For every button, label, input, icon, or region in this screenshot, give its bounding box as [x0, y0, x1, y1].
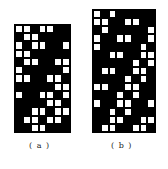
- filled-cell: [116, 26, 124, 34]
- filled-cell: [132, 108, 140, 116]
- filled-cell: [101, 108, 109, 116]
- filled-cell: [54, 33, 62, 41]
- filled-cell: [46, 58, 54, 66]
- filled-cell: [101, 59, 109, 67]
- filled-cell: [39, 58, 47, 66]
- empty-cell: [124, 18, 132, 26]
- empty-cell: [31, 116, 39, 124]
- empty-cell: [93, 83, 101, 91]
- filled-cell: [39, 33, 47, 41]
- filled-cell: [54, 124, 62, 132]
- empty-cell: [140, 51, 148, 59]
- filled-cell: [31, 74, 39, 82]
- filled-cell: [132, 75, 140, 83]
- empty-cell: [124, 108, 132, 116]
- empty-cell: [93, 18, 101, 26]
- filled-cell: [124, 43, 132, 51]
- filled-cell: [132, 43, 140, 51]
- empty-cell: [124, 34, 132, 42]
- empty-cell: [31, 107, 39, 115]
- filled-cell: [132, 10, 140, 18]
- empty-cell: [109, 108, 117, 116]
- empty-cell: [39, 41, 47, 49]
- filled-cell: [147, 108, 155, 116]
- empty-cell: [93, 10, 101, 18]
- filled-cell: [147, 75, 155, 83]
- empty-cell: [132, 83, 140, 91]
- empty-cell: [116, 99, 124, 107]
- filled-cell: [124, 59, 132, 67]
- filled-cell: [116, 18, 124, 26]
- filled-cell: [147, 67, 155, 75]
- filled-cell: [23, 66, 31, 74]
- empty-cell: [31, 124, 39, 132]
- filled-cell: [62, 116, 70, 124]
- filled-cell: [15, 33, 23, 41]
- filled-cell: [62, 74, 70, 82]
- grid-panel-b: [92, 9, 156, 133]
- empty-cell: [132, 59, 140, 67]
- filled-cell: [147, 124, 155, 132]
- empty-cell: [101, 67, 109, 75]
- empty-cell: [39, 124, 47, 132]
- filled-cell: [31, 91, 39, 99]
- empty-cell: [101, 26, 109, 34]
- filled-cell: [31, 25, 39, 33]
- filled-cell: [54, 66, 62, 74]
- filled-cell: [39, 83, 47, 91]
- filled-cell: [140, 34, 148, 42]
- filled-cell: [31, 66, 39, 74]
- empty-cell: [23, 116, 31, 124]
- empty-cell: [62, 66, 70, 74]
- empty-cell: [23, 50, 31, 58]
- empty-cell: [93, 99, 101, 107]
- empty-cell: [54, 83, 62, 91]
- empty-cell: [140, 43, 148, 51]
- filled-cell: [93, 75, 101, 83]
- empty-cell: [31, 41, 39, 49]
- filled-cell: [109, 75, 117, 83]
- empty-cell: [15, 25, 23, 33]
- empty-cell: [140, 67, 148, 75]
- filled-cell: [124, 116, 132, 124]
- filled-cell: [116, 108, 124, 116]
- filled-cell: [147, 43, 155, 51]
- empty-cell: [109, 116, 117, 124]
- filled-cell: [124, 10, 132, 18]
- empty-cell: [116, 34, 124, 42]
- filled-cell: [23, 91, 31, 99]
- empty-cell: [147, 26, 155, 34]
- filled-cell: [15, 116, 23, 124]
- empty-cell: [62, 91, 70, 99]
- filled-cell: [62, 33, 70, 41]
- filled-cell: [39, 74, 47, 82]
- empty-cell: [62, 107, 70, 115]
- filled-cell: [23, 107, 31, 115]
- empty-cell: [109, 10, 117, 18]
- empty-cell: [62, 58, 70, 66]
- empty-cell: [101, 124, 109, 132]
- filled-cell: [39, 50, 47, 58]
- filled-cell: [109, 26, 117, 34]
- empty-cell: [15, 41, 23, 49]
- empty-cell: [93, 34, 101, 42]
- filled-cell: [101, 99, 109, 107]
- empty-cell: [147, 99, 155, 107]
- empty-cell: [132, 18, 140, 26]
- filled-cell: [109, 99, 117, 107]
- filled-cell: [46, 50, 54, 58]
- filled-cell: [31, 50, 39, 58]
- empty-cell: [147, 34, 155, 42]
- filled-cell: [101, 116, 109, 124]
- panel-label-b: ( b ): [111, 141, 132, 150]
- empty-cell: [147, 116, 155, 124]
- filled-cell: [140, 83, 148, 91]
- filled-cell: [46, 83, 54, 91]
- filled-cell: [15, 107, 23, 115]
- filled-cell: [109, 91, 117, 99]
- empty-cell: [54, 74, 62, 82]
- filled-cell: [15, 83, 23, 91]
- filled-cell: [109, 59, 117, 67]
- filled-cell: [124, 91, 132, 99]
- filled-cell: [93, 26, 101, 34]
